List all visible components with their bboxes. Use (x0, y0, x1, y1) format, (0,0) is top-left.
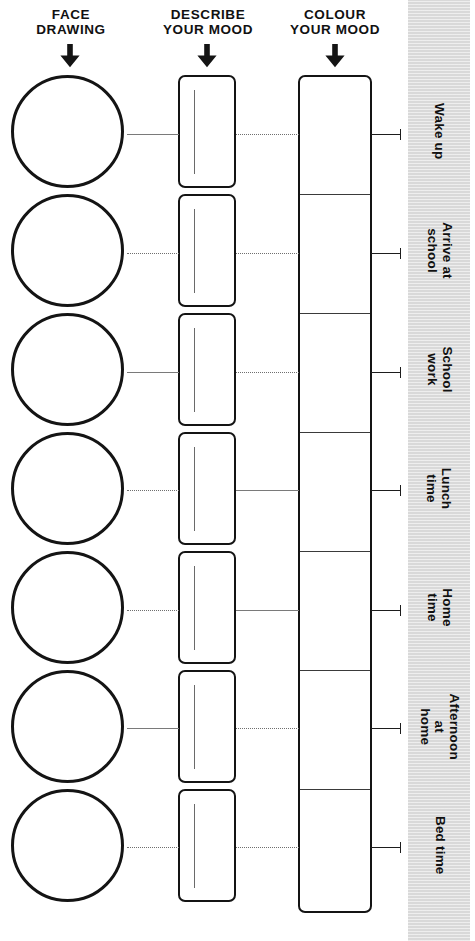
colour-cell-divider (300, 313, 370, 314)
writing-guide-line (194, 804, 195, 888)
connector-line (371, 134, 401, 135)
connector-end-tick (400, 485, 401, 496)
colour-cell-divider (300, 194, 370, 195)
writing-guide-line (194, 209, 195, 293)
connector-line (236, 134, 299, 135)
face-drawing-circle[interactable] (11, 670, 124, 783)
colour-cell-divider (300, 551, 370, 552)
describe-mood-box[interactable] (178, 313, 236, 426)
connector-end-tick (400, 605, 401, 616)
face-drawing-circle[interactable] (11, 551, 124, 664)
face-drawing-circle[interactable] (11, 432, 124, 545)
face-drawing-circle[interactable] (11, 789, 124, 902)
connector-line (371, 372, 401, 373)
connector-end-tick (400, 723, 401, 734)
down-arrow-icon (194, 44, 220, 68)
connector-line (127, 253, 179, 254)
writing-guide-line (194, 685, 195, 769)
colour-cell-divider (300, 789, 370, 790)
writing-guide-line (194, 447, 195, 531)
connector-end-tick (400, 367, 401, 378)
describe-mood-box[interactable] (178, 789, 236, 902)
describe-mood-box[interactable] (178, 670, 236, 783)
face-drawing-circle[interactable] (11, 194, 124, 307)
column-header-describe-your-mood: DESCRIBE YOUR MOOD (137, 7, 279, 37)
connector-line (236, 372, 299, 373)
worksheet-sheet: FACE DRAWING DESCRIBE YOUR MOOD COLOUR Y… (0, 0, 475, 941)
writing-guide-line (194, 566, 195, 650)
column-header-face-drawing: FACE DRAWING (0, 7, 142, 37)
connector-line (371, 490, 401, 491)
describe-mood-box[interactable] (178, 194, 236, 307)
connector-line (127, 134, 179, 135)
describe-mood-box[interactable] (178, 75, 236, 188)
down-arrow-icon (322, 44, 348, 68)
column-header-colour-your-mood: COLOUR YOUR MOOD (264, 7, 406, 37)
face-drawing-circle[interactable] (11, 313, 124, 426)
connector-line (127, 847, 179, 848)
connector-line (236, 253, 299, 254)
connector-line (236, 490, 299, 491)
describe-mood-box[interactable] (178, 551, 236, 664)
connector-line (371, 253, 401, 254)
colour-cell-divider (300, 432, 370, 433)
describe-mood-box[interactable] (178, 432, 236, 545)
connector-end-tick (400, 129, 401, 140)
connector-line (371, 728, 401, 729)
writing-guide-line (194, 90, 195, 174)
connector-line (371, 610, 401, 611)
connector-line (127, 610, 179, 611)
connector-end-tick (400, 248, 401, 259)
connector-line (236, 610, 299, 611)
writing-guide-line (194, 328, 195, 412)
connector-line (127, 728, 179, 729)
colour-cell-divider (300, 670, 370, 671)
colour-your-mood-grid[interactable] (298, 75, 372, 913)
down-arrow-icon (57, 44, 83, 68)
connector-line (371, 847, 401, 848)
connector-end-tick (400, 842, 401, 853)
face-drawing-circle[interactable] (11, 75, 124, 188)
row-label-band (408, 0, 470, 941)
connector-line (127, 490, 179, 491)
connector-line (127, 372, 179, 373)
connector-line (236, 728, 299, 729)
connector-line (236, 847, 299, 848)
